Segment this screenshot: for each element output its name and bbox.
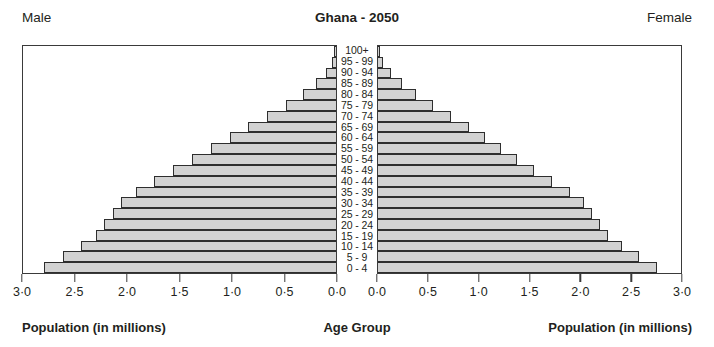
bar-row <box>23 262 336 273</box>
male-bar-5-9 <box>63 251 336 262</box>
female-bar-20-24 <box>378 219 600 230</box>
male-bar-55-59 <box>211 143 336 154</box>
female-bar-15-19 <box>378 230 608 241</box>
female-bar-85-89 <box>378 78 402 89</box>
male-bar-95-99 <box>332 57 336 68</box>
male-x-axis-ticks <box>22 274 337 283</box>
female-bar-90-94 <box>378 68 391 79</box>
female-x-tick <box>681 274 682 282</box>
female-x-tick <box>529 274 530 282</box>
bar-row <box>23 100 336 111</box>
age-group-label: 20 - 24 <box>337 219 377 230</box>
bar-row <box>378 197 681 208</box>
male-x-tick-label: 2·5 <box>65 285 83 299</box>
female-bar-80-84 <box>378 89 416 100</box>
bar-row <box>378 230 681 241</box>
age-group-label: 80 - 84 <box>337 89 377 100</box>
bar-row <box>378 46 681 57</box>
bar-row <box>23 78 336 89</box>
male-x-tick <box>74 274 75 282</box>
female-bar-35-39 <box>378 187 570 198</box>
bar-row <box>378 208 681 219</box>
female-x-tick <box>630 274 631 282</box>
bar-row <box>23 132 336 143</box>
bar-row <box>378 176 681 187</box>
bar-row <box>23 68 336 79</box>
right-axis-caption: Population (in millions) <box>548 320 692 335</box>
bar-row <box>23 197 336 208</box>
male-x-tick <box>179 274 180 282</box>
female-bar-95-99 <box>378 57 383 68</box>
male-x-tick-label: 2·0 <box>118 285 136 299</box>
male-x-tick-label: 3·0 <box>13 285 31 299</box>
female-bar-30-34 <box>378 197 584 208</box>
male-bar-25-29 <box>113 208 336 219</box>
bar-row <box>23 154 336 165</box>
female-bar-rows <box>378 46 681 273</box>
female-x-tick-label: 3·0 <box>673 285 691 299</box>
bar-row <box>378 89 681 100</box>
female-x-tick-label: 0·5 <box>419 285 437 299</box>
female-bar-75-79 <box>378 100 433 111</box>
female-bar-55-59 <box>378 143 501 154</box>
male-x-tick-label: 0·0 <box>328 285 346 299</box>
bar-row <box>23 176 336 187</box>
age-group-label: 25 - 29 <box>337 209 377 220</box>
bar-row <box>378 241 681 252</box>
male-bar-10-14 <box>81 241 336 252</box>
male-bar-75-79 <box>286 100 336 111</box>
age-group-label: 75 - 79 <box>337 100 377 111</box>
bar-row <box>378 154 681 165</box>
male-bar-40-44 <box>154 176 336 187</box>
male-bar-50-54 <box>192 154 336 165</box>
male-x-tick <box>126 274 127 282</box>
bar-row <box>378 78 681 89</box>
bar-row <box>23 187 336 198</box>
male-x-axis-labels: 3·02·52·01·51·00·50·0 <box>22 285 337 301</box>
male-bar-15-19 <box>96 230 336 241</box>
female-bar-70-74 <box>378 111 451 122</box>
male-bar-65-69 <box>248 122 336 133</box>
male-x-tick <box>231 274 232 282</box>
male-x-tick-label: 1·0 <box>223 285 241 299</box>
chart-title: Ghana - 2050 <box>0 10 714 25</box>
bar-row <box>378 165 681 176</box>
bar-row <box>378 111 681 122</box>
male-x-tick-label: 0·5 <box>275 285 293 299</box>
female-side-label: Female <box>647 10 692 25</box>
bar-row <box>378 251 681 262</box>
age-group-axis: 0 - 45 - 910 - 1415 - 1920 - 2425 - 2930… <box>337 45 377 274</box>
female-bar-45-49 <box>378 165 534 176</box>
female-bar-5-9 <box>378 251 639 262</box>
age-group-label: 0 - 4 <box>337 263 377 274</box>
bar-row <box>378 132 681 143</box>
bar-row <box>23 89 336 100</box>
female-bar-40-44 <box>378 176 552 187</box>
male-x-tick <box>21 274 22 282</box>
male-x-tick <box>284 274 285 282</box>
bar-row <box>378 262 681 273</box>
female-x-tick <box>478 274 479 282</box>
female-bar-60-64 <box>378 132 485 143</box>
male-bar-100+ <box>334 46 337 57</box>
male-bar-0-4 <box>44 262 336 273</box>
male-x-tick-label: 1·5 <box>170 285 188 299</box>
bar-row <box>23 251 336 262</box>
population-pyramid-chart: Male Ghana - 2050 Female 0 - 45 - 910 - … <box>0 0 714 347</box>
male-bar-rows <box>23 46 336 273</box>
female-bar-100+ <box>378 46 380 57</box>
female-bar-50-54 <box>378 154 517 165</box>
age-group-label: 30 - 34 <box>337 198 377 209</box>
bar-row <box>23 219 336 230</box>
male-bar-90-94 <box>326 68 336 79</box>
bar-row <box>23 165 336 176</box>
bar-row <box>23 122 336 133</box>
male-bar-45-49 <box>173 165 336 176</box>
male-bar-80-84 <box>303 89 336 100</box>
female-bar-10-14 <box>378 241 622 252</box>
bar-row <box>23 57 336 68</box>
male-bar-70-74 <box>267 111 336 122</box>
female-bar-0-4 <box>378 262 657 273</box>
male-bar-85-89 <box>316 78 336 89</box>
female-x-tick <box>427 274 428 282</box>
